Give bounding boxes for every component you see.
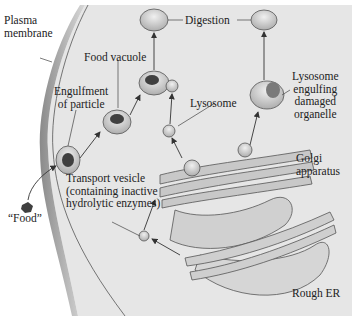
- label-lysosome-engulfing-line1: Lysosome: [292, 70, 339, 83]
- label-engulfment-line1: Engulfment: [54, 85, 108, 98]
- label-plasma-membrane: Plasma membrane: [4, 14, 53, 39]
- label-engulfment: Engulfment of particle: [54, 85, 108, 110]
- label-golgi: Golgi apparatus: [296, 152, 340, 177]
- label-plasma-membrane-line1: Plasma: [4, 14, 53, 27]
- label-golgi-line1: Golgi: [296, 152, 340, 165]
- diagram-canvas: Plasma membrane Food vacuole Digestion E…: [0, 0, 352, 316]
- label-golgi-line2: apparatus: [296, 165, 340, 178]
- label-rough-er: Rough ER: [292, 287, 340, 300]
- label-food: “Food”: [8, 212, 42, 225]
- label-lysosome-engulfing-line4: organelle: [292, 108, 339, 121]
- label-lysosome-engulfing-line2: engulfing: [292, 83, 339, 96]
- label-transport-vesicle: Transport vesicle (containing inactive h…: [66, 172, 160, 210]
- label-transport-vesicle-line2: (containing inactive: [66, 185, 160, 198]
- label-engulfment-line2: of particle: [54, 98, 108, 111]
- label-food-vacuole: Food vacuole: [84, 51, 146, 64]
- label-digestion: Digestion: [185, 14, 230, 27]
- label-lysosome-engulfing-line3: damaged: [292, 95, 339, 108]
- label-lysosome-engulfing: Lysosome engulfing damaged organelle: [292, 70, 339, 120]
- label-plasma-membrane-line2: membrane: [4, 27, 53, 40]
- label-lysosome: Lysosome: [190, 97, 237, 110]
- label-transport-vesicle-line3: hydrolytic enzymes): [66, 197, 160, 210]
- label-transport-vesicle-line1: Transport vesicle: [66, 172, 160, 185]
